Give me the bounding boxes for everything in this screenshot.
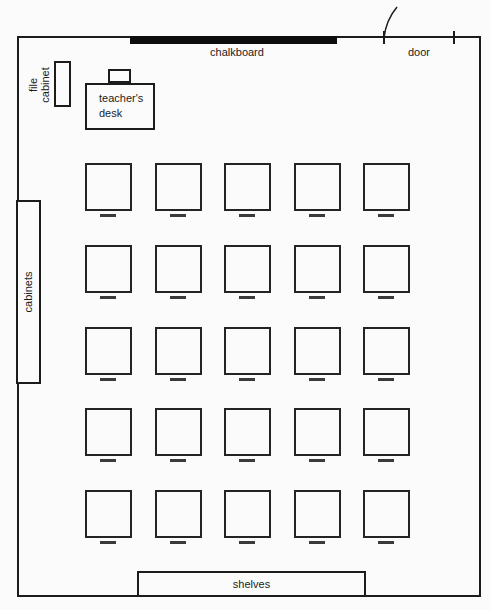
teacher-chair	[108, 69, 131, 83]
shelves: shelves	[137, 571, 366, 597]
file-cabinet-label-line1: file	[27, 67, 39, 102]
student-desk	[155, 163, 202, 211]
door-jamb-tick-right	[453, 31, 455, 44]
student-chair-mark	[378, 378, 394, 381]
teachers-desk-label-line2: desk	[99, 106, 153, 121]
student-desk	[155, 490, 202, 538]
student-desk	[85, 327, 132, 375]
student-desk	[155, 245, 202, 293]
teachers-desk-label-line1: teacher's	[99, 91, 153, 106]
student-chair-mark	[309, 214, 325, 217]
student-desk	[224, 245, 271, 293]
student-chair-mark	[309, 296, 325, 299]
student-desk	[224, 327, 271, 375]
door-swing-arc	[378, 3, 406, 41]
student-desk	[294, 245, 341, 293]
student-chair-mark	[239, 214, 255, 217]
student-desk	[363, 490, 410, 538]
student-desk	[363, 163, 410, 211]
student-chair-mark	[378, 541, 394, 544]
student-desk	[294, 408, 341, 456]
student-chair-mark	[309, 378, 325, 381]
cabinets-label: cabinets	[23, 272, 35, 313]
file-cabinet	[54, 61, 71, 107]
student-chair-mark	[100, 541, 116, 544]
student-desk	[294, 490, 341, 538]
student-desk	[155, 327, 202, 375]
file-cabinet-label-line2: cabinet	[39, 67, 51, 102]
student-chair-mark	[170, 378, 186, 381]
student-chair-mark	[239, 459, 255, 462]
student-chair-mark	[100, 214, 116, 217]
teachers-desk: teacher's desk	[85, 83, 155, 130]
student-desk	[85, 245, 132, 293]
student-chair-mark	[239, 296, 255, 299]
student-desk	[224, 163, 271, 211]
student-chair-mark	[239, 541, 255, 544]
shelves-label: shelves	[233, 578, 270, 590]
student-chair-mark	[309, 541, 325, 544]
student-chair-mark	[100, 378, 116, 381]
student-desk	[224, 408, 271, 456]
student-desk	[224, 490, 271, 538]
student-desk	[363, 327, 410, 375]
student-desk	[294, 327, 341, 375]
door-label: door	[394, 46, 444, 59]
student-desk	[155, 408, 202, 456]
student-desk	[363, 408, 410, 456]
chalkboard-label: chalkboard	[182, 46, 292, 59]
student-chair-mark	[378, 214, 394, 217]
student-chair-mark	[378, 459, 394, 462]
student-chair-mark	[170, 296, 186, 299]
chalkboard	[130, 36, 337, 44]
floor-plan-canvas: chalkboard door file cabinet teacher's d…	[0, 0, 491, 610]
student-desk	[85, 490, 132, 538]
student-desk	[85, 408, 132, 456]
student-desk	[363, 245, 410, 293]
student-chair-mark	[239, 378, 255, 381]
student-chair-mark	[378, 296, 394, 299]
student-chair-mark	[100, 296, 116, 299]
student-chair-mark	[170, 541, 186, 544]
student-chair-mark	[309, 459, 325, 462]
student-chair-mark	[170, 214, 186, 217]
student-desk	[294, 163, 341, 211]
cabinets: cabinets	[16, 200, 41, 384]
student-desk	[85, 163, 132, 211]
file-cabinet-label: file cabinet	[25, 57, 53, 112]
student-chair-mark	[100, 459, 116, 462]
student-chair-mark	[170, 459, 186, 462]
